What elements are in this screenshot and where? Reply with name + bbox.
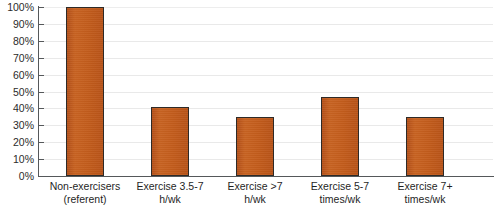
y-axis-tick-label: 100%: [0, 1, 34, 13]
y-axis-tick-label: 40%: [0, 102, 34, 114]
y-axis-tick: [39, 58, 44, 59]
bar: [151, 107, 189, 176]
y-axis-tick: [39, 159, 44, 160]
y-axis-tick-label: 70%: [0, 52, 34, 64]
y-axis-tick: [39, 142, 44, 143]
y-axis-tick-label: 50%: [0, 86, 34, 98]
y-axis-tick-label: 0%: [0, 170, 34, 182]
y-axis-tick: [39, 24, 44, 25]
bar: [406, 117, 444, 176]
gridline: [38, 75, 493, 76]
bar: [236, 117, 274, 176]
gridline: [38, 7, 493, 8]
plot-area: [38, 7, 493, 176]
gridline: [38, 41, 493, 42]
y-axis-tick: [39, 125, 44, 126]
x-axis-category-label: Exercise 7+ times/wk: [370, 180, 480, 205]
bar-chart: 0%10%20%30%40%50%60%70%80%90%100% Non-ex…: [0, 0, 500, 207]
gridline: [38, 92, 493, 93]
gridline: [38, 108, 493, 109]
bar: [66, 7, 104, 176]
y-axis-tick-label: 30%: [0, 119, 34, 131]
y-axis-tick: [39, 75, 44, 76]
y-axis-tick-label: 60%: [0, 69, 34, 81]
y-axis-tick-label: 80%: [0, 35, 34, 47]
y-axis-tick: [39, 7, 44, 8]
gridline: [38, 58, 493, 59]
y-axis-tick: [39, 176, 44, 177]
y-axis-tick: [39, 41, 44, 42]
y-axis-tick-label: 90%: [0, 18, 34, 30]
y-axis-tick-label: 10%: [0, 153, 34, 165]
y-axis-tick-label: 20%: [0, 136, 34, 148]
bar: [321, 97, 359, 176]
y-axis-tick: [39, 108, 44, 109]
x-axis-line: [38, 176, 494, 177]
gridline: [38, 24, 493, 25]
y-axis-tick: [39, 92, 44, 93]
